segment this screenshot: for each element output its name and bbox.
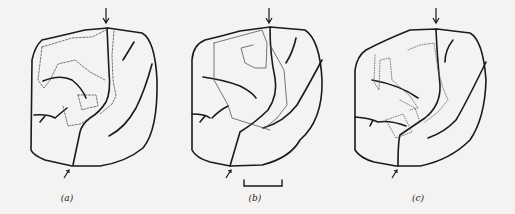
panel-b-outline: [192, 27, 322, 166]
panel-b-label: (b): [249, 193, 262, 203]
panel-c-outline: [355, 29, 486, 166]
figure-canvas: [0, 0, 515, 214]
panel-a-outline: [31, 28, 157, 166]
scale-bar: [244, 180, 282, 186]
panel-c-label: (c): [412, 193, 424, 203]
panel-a-label: (a): [61, 193, 73, 203]
